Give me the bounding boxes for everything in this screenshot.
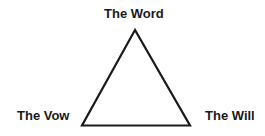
vertex-label-bottom-right: The Will: [205, 109, 255, 123]
vertex-label-top: The Word: [104, 7, 164, 21]
vertex-label-bottom-left: The Vow: [17, 109, 69, 123]
